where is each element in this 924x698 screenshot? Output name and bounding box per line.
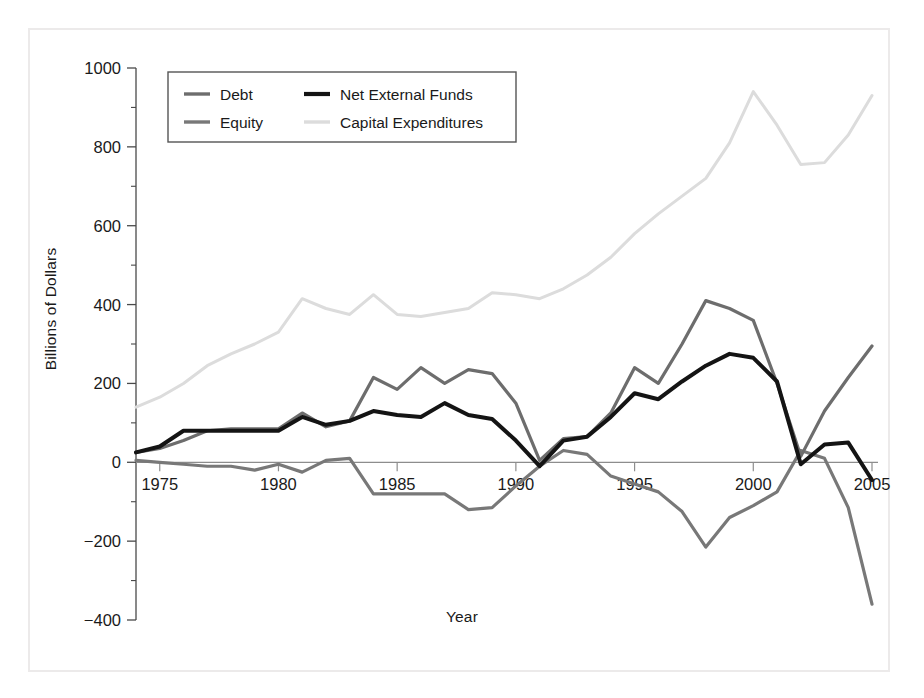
y-tick-label: 600 bbox=[93, 217, 121, 235]
x-tick-label: 2000 bbox=[735, 475, 772, 493]
legend-label-net-external-funds: Net External Funds bbox=[340, 86, 473, 103]
y-tick-label: −200 bbox=[84, 532, 121, 550]
line-chart: −400−20002004006008001000 19751980198519… bbox=[0, 0, 924, 698]
legend-label-debt: Debt bbox=[220, 86, 253, 103]
legend-label-capital-expenditures: Capital Expenditures bbox=[340, 114, 483, 131]
legend-label-equity: Equity bbox=[220, 114, 263, 131]
x-axis-title: Year bbox=[0, 608, 924, 626]
y-tick-label: 400 bbox=[93, 296, 121, 314]
y-tick-label: 1000 bbox=[84, 59, 121, 77]
y-tick-labels: −400−20002004006008001000 bbox=[84, 59, 121, 629]
x-tick-label: 1985 bbox=[379, 475, 416, 493]
y-axis-title: Billions of Dollars bbox=[42, 214, 60, 404]
axis-lines bbox=[127, 68, 878, 620]
legend-frame bbox=[168, 72, 516, 142]
series-line-debt bbox=[136, 301, 872, 461]
x-tick-label: 1975 bbox=[141, 475, 178, 493]
y-tick-label: 200 bbox=[93, 374, 121, 392]
y-tick-label: 800 bbox=[93, 138, 121, 156]
legend-box: DebtNet External FundsEquityCapital Expe… bbox=[168, 72, 516, 142]
series-line-net-external-funds bbox=[136, 354, 872, 480]
series-lines bbox=[136, 92, 872, 605]
figure-container: −400−20002004006008001000 19751980198519… bbox=[0, 0, 924, 698]
x-tick-label: 1980 bbox=[260, 475, 297, 493]
series-line-equity bbox=[136, 450, 872, 604]
y-tick-label: 0 bbox=[112, 453, 121, 471]
